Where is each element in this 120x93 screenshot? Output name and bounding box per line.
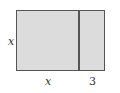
outer-rectangle — [16, 10, 105, 71]
bottom-right-label: 3 — [89, 76, 96, 87]
left-side-label: x — [8, 36, 14, 47]
divider-line — [78, 10, 80, 71]
bottom-left-label: x — [45, 76, 51, 87]
